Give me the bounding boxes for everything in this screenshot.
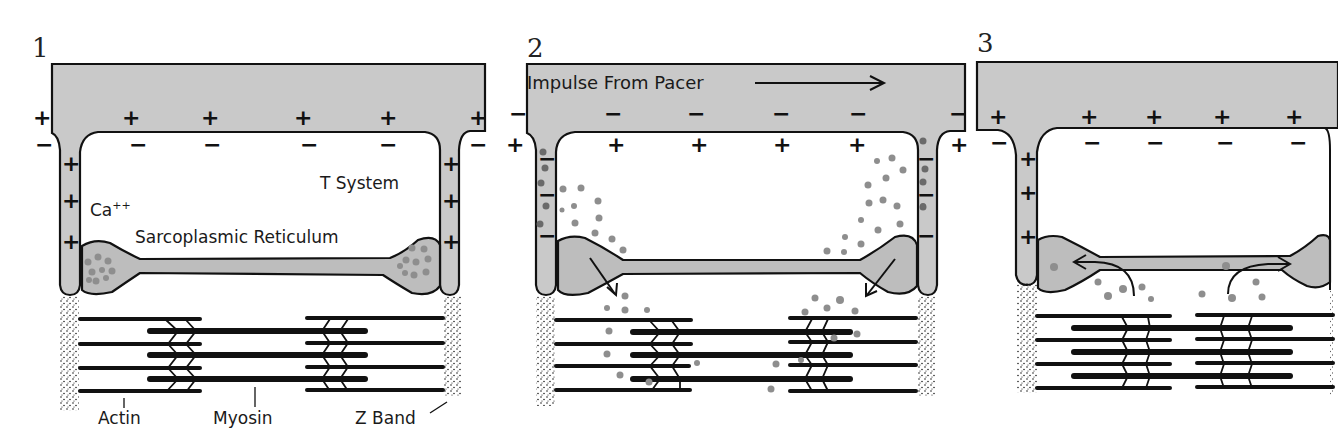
svg-text:+: + [607,132,625,157]
svg-text:+: + [62,188,80,213]
svg-text:+: + [1080,104,1098,129]
panel-number-3: 3 [977,28,994,58]
svg-text:−: − [949,101,967,126]
svg-text:+: + [1019,180,1037,205]
svg-text:+: + [773,132,791,157]
svg-text:+: + [1213,104,1231,129]
label-actin: Actin [98,408,141,428]
sarcomere-filaments [1037,315,1333,388]
svg-text:+: + [1019,146,1037,171]
svg-text:+: + [1285,104,1303,129]
svg-text:−: − [604,101,622,126]
svg-text:−: − [509,101,527,126]
svg-text:−: − [917,223,935,248]
svg-text:+: + [201,105,219,130]
svg-text:+: + [442,188,460,213]
svg-text:+: + [1145,104,1163,129]
label-calcium: Ca++ [90,199,131,220]
svg-text:−: − [1289,130,1307,155]
svg-text:−: − [469,132,487,157]
svg-text:−: − [1146,130,1164,155]
svg-text:−: − [129,132,147,157]
svg-text:+: + [690,132,708,157]
svg-text:+: + [379,105,397,130]
svg-text:+: + [950,132,968,157]
svg-text:−: − [538,223,556,248]
label-sarcoplasmic-reticulum: Sarcoplasmic Reticulum [135,227,338,247]
label-z-band: Z Band [355,408,416,428]
sarcolemma-membrane [977,62,1338,285]
sarcomere-filaments [80,318,443,392]
svg-text:−: − [990,130,1008,155]
panel-1: 1 [32,33,487,428]
svg-text:+: + [469,105,487,130]
svg-text:−: − [1216,130,1234,155]
svg-text:−: − [538,146,556,171]
svg-text:+: + [62,151,80,176]
z-band-right [443,296,461,396]
svg-text:+: + [848,132,866,157]
label-impulse: Impulse From Pacer [527,72,704,93]
svg-text:−: − [300,132,318,157]
svg-text:−: − [687,101,705,126]
svg-text:−: − [849,101,867,126]
svg-text:+: + [62,229,80,254]
svg-text:+: + [442,151,460,176]
label-t-system: T System [319,173,399,193]
svg-text:+: + [294,105,312,130]
panel-2: 2 Impulse From Pacer [506,33,968,406]
panel-number-2: 2 [527,33,544,63]
svg-text:−: − [917,146,935,171]
muscle-excitation-diagram: 1 [0,0,1338,443]
panel-number-1: 1 [32,33,49,63]
svg-text:+: + [442,229,460,254]
svg-text:+: + [506,132,524,157]
svg-text:−: − [35,132,53,157]
svg-text:+: + [1019,224,1037,249]
svg-text:−: − [203,132,221,157]
svg-text:−: − [1083,130,1101,155]
label-myosin: Myosin [213,408,272,428]
svg-text:+: + [122,105,140,130]
panel-3: 3 [977,28,1338,395]
svg-text:+: + [33,105,51,130]
z-band-left [60,296,79,411]
svg-text:−: − [379,132,397,157]
svg-text:+: + [989,104,1007,129]
svg-text:−: − [538,182,556,207]
svg-text:−: − [917,182,935,207]
svg-text:−: − [772,101,790,126]
